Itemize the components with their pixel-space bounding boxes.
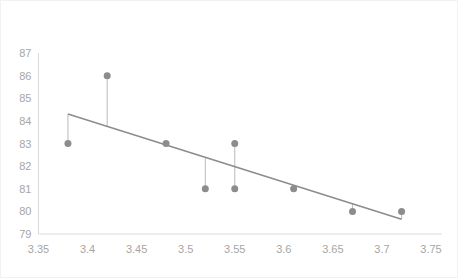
y-axis-tick-label: 83 — [8, 138, 32, 150]
plot-area — [1, 1, 458, 278]
data-point — [231, 185, 238, 192]
data-point — [64, 140, 71, 147]
axes — [39, 53, 443, 234]
y-axis-tick-label: 82 — [8, 160, 32, 172]
y-axis-tick-label: 80 — [8, 205, 32, 217]
data-point — [202, 185, 209, 192]
x-axis-tick-label: 3.6 — [264, 243, 304, 255]
x-axis-tick-label: 3.45 — [117, 243, 157, 255]
trendline-segment — [68, 114, 402, 219]
data-points — [64, 72, 405, 215]
data-point — [290, 185, 297, 192]
trendline — [68, 114, 402, 219]
data-point — [104, 72, 111, 79]
y-axis-tick-label: 86 — [8, 70, 32, 82]
scatter-chart: 878685848382818079 3.353.43.453.53.553.6… — [0, 0, 458, 278]
residual-lines — [68, 76, 402, 220]
x-axis-tick-label: 3.7 — [362, 243, 402, 255]
x-axis-tick-label: 3.55 — [215, 243, 255, 255]
data-point — [398, 208, 405, 215]
x-axis-tick-label: 3.5 — [166, 243, 206, 255]
data-point — [349, 208, 356, 215]
x-axis-tick-label: 3.35 — [19, 243, 59, 255]
x-axis-tick-label: 3.4 — [68, 243, 108, 255]
x-axis-tick-label: 3.65 — [313, 243, 353, 255]
y-axis-tick-label: 84 — [8, 115, 32, 127]
x-axis-tick-label: 3.75 — [411, 243, 451, 255]
y-axis-tick-label: 81 — [8, 183, 32, 195]
data-point — [231, 140, 238, 147]
y-axis-tick-label: 85 — [8, 92, 32, 104]
y-axis-tick-label: 79 — [8, 228, 32, 240]
data-point — [163, 140, 170, 147]
y-axis-tick-label: 87 — [8, 47, 32, 59]
